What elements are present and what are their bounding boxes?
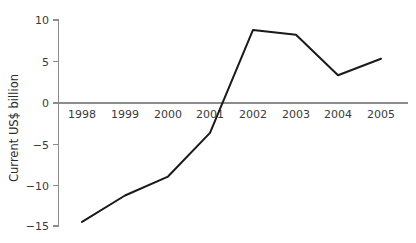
- x-axis-tick-labels: 1998 1999 2000 2001 2002 2003 2004 2005: [68, 108, 395, 121]
- x-tick-label: 2000: [154, 108, 182, 121]
- y-tick-label: −15: [26, 220, 49, 233]
- chart-canvas: Current US$ billion 10 5 0 −5 −10 −15 19…: [0, 0, 416, 243]
- y-tick-label: 0: [42, 97, 49, 110]
- line-chart: Current US$ billion 10 5 0 −5 −10 −15 19…: [0, 0, 416, 243]
- x-tick-label: 2003: [282, 108, 310, 121]
- x-tick-label: 2005: [367, 108, 395, 121]
- y-axis-ticks: [53, 20, 59, 226]
- y-axis-tick-labels: 10 5 0 −5 −10 −15: [26, 14, 49, 233]
- y-tick-label: 5: [42, 56, 49, 69]
- y-tick-label: −5: [33, 139, 49, 152]
- x-tick-label: 1999: [111, 108, 139, 121]
- y-axis-title: Current US$ billion: [7, 74, 21, 182]
- x-tick-label: 1998: [68, 108, 96, 121]
- x-tick-label: 2002: [239, 108, 267, 121]
- x-tick-label: 2004: [324, 108, 352, 121]
- data-series-line: [82, 30, 381, 222]
- y-tick-label: 10: [35, 14, 49, 27]
- y-tick-label: −10: [26, 180, 49, 193]
